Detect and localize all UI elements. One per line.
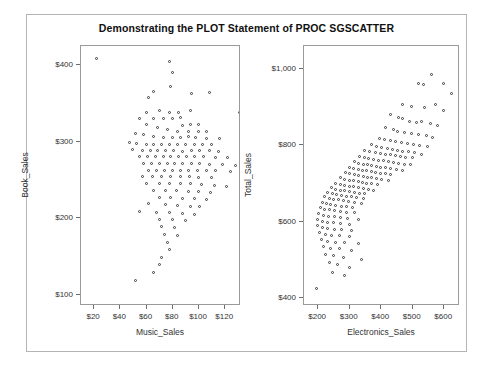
scatter-point bbox=[383, 138, 386, 141]
scatter-point bbox=[332, 221, 335, 224]
scatter-point bbox=[407, 150, 410, 153]
scatter-point bbox=[164, 203, 167, 206]
scatter-point bbox=[162, 136, 165, 139]
scatter-point bbox=[326, 221, 329, 224]
scatter-point bbox=[181, 124, 184, 127]
scatter-point bbox=[413, 151, 416, 154]
scatter-point bbox=[372, 189, 375, 192]
scatter-point bbox=[138, 155, 141, 158]
scatter-point bbox=[442, 82, 445, 85]
scatter-point bbox=[317, 212, 320, 215]
scatter-point bbox=[198, 162, 201, 165]
scatter-point bbox=[208, 163, 211, 166]
scatter-point bbox=[210, 143, 213, 146]
scatter-point bbox=[374, 151, 377, 154]
scatter-point bbox=[328, 197, 331, 200]
scatter-point bbox=[181, 162, 184, 165]
scatter-point bbox=[387, 179, 390, 182]
scatter-point bbox=[339, 176, 342, 179]
scatter-point bbox=[208, 149, 211, 152]
scatter-point bbox=[187, 130, 190, 133]
scatter-point bbox=[399, 155, 402, 158]
scatter-point bbox=[187, 135, 190, 138]
scatter-point bbox=[166, 241, 169, 244]
scatter-point bbox=[379, 172, 382, 175]
x-axis-title: Music_Sales bbox=[136, 327, 184, 337]
scatter-point bbox=[357, 180, 360, 183]
scatter-point bbox=[185, 155, 188, 158]
scatter-point bbox=[417, 82, 420, 85]
scatter-point bbox=[189, 123, 192, 126]
scatter-point bbox=[329, 247, 332, 250]
scatter-point bbox=[152, 90, 155, 93]
scatter-point bbox=[389, 113, 392, 116]
scatter-point bbox=[327, 215, 330, 218]
scatter-point bbox=[362, 197, 365, 200]
x-tick-label: $200 bbox=[308, 312, 326, 321]
scatter-point bbox=[194, 136, 197, 139]
scatter-point bbox=[350, 195, 353, 198]
y-tick-mark bbox=[76, 217, 80, 218]
scatter-point bbox=[410, 105, 413, 108]
scatter-point bbox=[333, 215, 336, 218]
scatter-point bbox=[442, 109, 445, 112]
scatter-point bbox=[324, 253, 327, 256]
scatter-point bbox=[345, 211, 348, 214]
x-tick-mark bbox=[412, 305, 413, 309]
scatter-point bbox=[142, 162, 145, 165]
scatter-point bbox=[348, 172, 351, 175]
scatter-point bbox=[348, 223, 351, 226]
scatter-point bbox=[189, 109, 192, 112]
scatter-point bbox=[141, 149, 144, 152]
scatter-point bbox=[226, 156, 229, 159]
scatter-point bbox=[366, 176, 369, 179]
scatter-point bbox=[210, 176, 213, 179]
x-tick-mark bbox=[93, 305, 94, 309]
scatter-point bbox=[163, 169, 166, 172]
scatter-point bbox=[392, 161, 395, 164]
scatter-point bbox=[190, 162, 193, 165]
scatter-point bbox=[339, 222, 342, 225]
scatter-point bbox=[375, 165, 378, 168]
scatter-point bbox=[361, 169, 364, 172]
scatter-point bbox=[374, 171, 377, 174]
scatter-point bbox=[348, 166, 351, 169]
scatter-point bbox=[179, 136, 182, 139]
scatter-point bbox=[147, 169, 150, 172]
scatter-point bbox=[316, 218, 319, 221]
scatter-point bbox=[321, 201, 324, 204]
scatter-point bbox=[160, 225, 163, 228]
scatter-point bbox=[171, 218, 174, 221]
scatter-point bbox=[168, 143, 171, 146]
scatter-point bbox=[418, 144, 421, 147]
scatter-point bbox=[221, 163, 224, 166]
scatter-point bbox=[131, 148, 134, 151]
scatter-point bbox=[158, 182, 161, 185]
scatter-point bbox=[417, 133, 420, 136]
scatter-point bbox=[343, 274, 346, 277]
scatter-point bbox=[360, 258, 363, 261]
scatter-point bbox=[423, 106, 426, 109]
scatter-point bbox=[181, 197, 184, 200]
scatter-point bbox=[367, 157, 370, 160]
scatter-point bbox=[324, 233, 327, 236]
scatter-point bbox=[162, 155, 165, 158]
scatter-point bbox=[152, 189, 155, 192]
x-tick-mark bbox=[198, 305, 199, 309]
scatter-point bbox=[168, 111, 171, 114]
scatter-point bbox=[145, 182, 148, 185]
scatter-point bbox=[135, 142, 138, 145]
scatter-point bbox=[205, 130, 208, 133]
scatter-point bbox=[352, 179, 355, 182]
scatter-point bbox=[147, 202, 150, 205]
scatter-point bbox=[171, 169, 174, 172]
x-tick-label: $600 bbox=[434, 312, 452, 321]
scatter-point bbox=[352, 167, 355, 170]
scatter-point bbox=[193, 155, 196, 158]
scatter-point bbox=[358, 155, 361, 158]
scatter-point bbox=[151, 175, 154, 178]
scatter-point bbox=[339, 183, 342, 186]
scatter-point bbox=[209, 191, 212, 194]
scatter-point bbox=[348, 266, 351, 269]
scatter-point bbox=[370, 170, 373, 173]
